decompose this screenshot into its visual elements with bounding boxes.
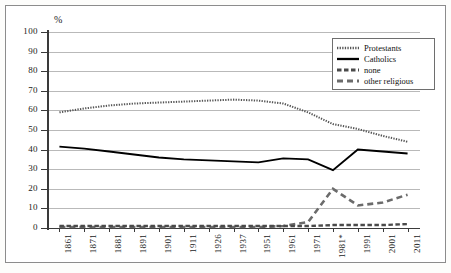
legend-item: none [336,64,430,75]
legend-swatch-icon [336,43,360,53]
legend-item-label: none [364,65,381,75]
legend-swatch-icon [336,54,360,64]
series-line-protestants [59,100,407,142]
legend-swatch-icon [336,76,360,86]
figure-container: % 1009080706050403020100 186118711881189… [0,0,451,273]
legend-item-label: Protestants [364,43,401,53]
legend-item: Catholics [336,53,430,64]
legend-item: other religious [336,75,430,86]
series-line-catholics [59,147,407,171]
legend-item: Protestants [336,42,430,53]
series-line-none [59,189,407,227]
legend-item-label: other religious [364,76,413,86]
legend-swatch-icon [336,65,360,75]
chart-legend: ProtestantsCatholicsnoneother religious [332,38,435,90]
legend-item-label: Catholics [364,54,396,64]
